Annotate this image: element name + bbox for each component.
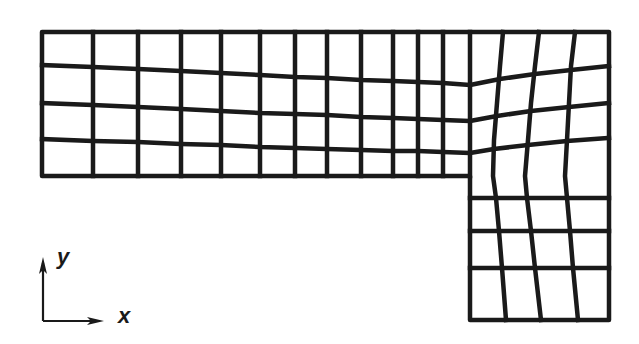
mesh-vertical-line bbox=[565, 32, 578, 320]
coordinate-axes: y x bbox=[39, 244, 131, 328]
mesh-grid bbox=[42, 32, 609, 320]
x-axis-label: x bbox=[117, 303, 131, 328]
mesh-diagram: y x bbox=[0, 0, 639, 344]
y-axis-label: y bbox=[56, 244, 71, 269]
mesh-vertical-line bbox=[493, 32, 506, 320]
x-axis-arrow-icon bbox=[43, 317, 104, 325]
y-axis-arrow-icon bbox=[39, 257, 47, 321]
